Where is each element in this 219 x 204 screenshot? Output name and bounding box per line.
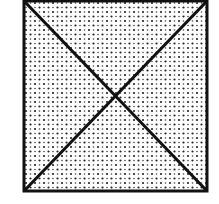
crossed-square-figure <box>0 0 219 204</box>
